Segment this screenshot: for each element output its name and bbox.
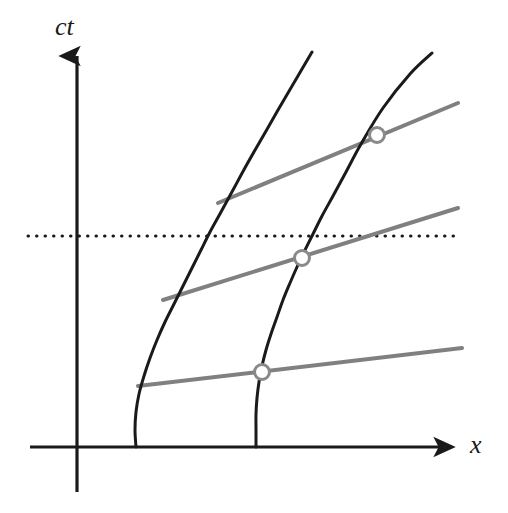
lower-simultaneity-line bbox=[138, 348, 462, 386]
event-markers-group bbox=[255, 128, 385, 380]
upper-event-marker bbox=[370, 128, 385, 143]
worldlines-group bbox=[135, 52, 432, 447]
lower-event-marker bbox=[255, 365, 270, 380]
x-axis-label: x bbox=[470, 432, 482, 458]
inner-hyperbola bbox=[135, 52, 312, 447]
spacetime-diagram-canvas bbox=[0, 0, 508, 513]
simultaneity-lines-group bbox=[138, 103, 462, 386]
spacetime-diagram-figure: ct x bbox=[0, 0, 508, 513]
middle-event-marker bbox=[295, 251, 310, 266]
ct-axis-label: ct bbox=[55, 14, 74, 40]
outer-hyperbola bbox=[256, 53, 432, 447]
middle-simultaneity-line bbox=[163, 208, 458, 300]
